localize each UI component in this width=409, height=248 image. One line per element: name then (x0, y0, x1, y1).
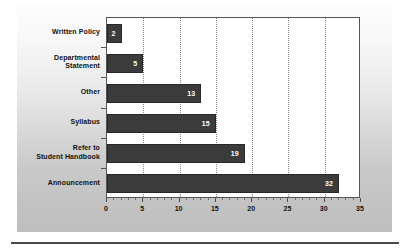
value-axis-minor-tick (237, 198, 238, 200)
value-axis-tick-label: 10 (168, 204, 190, 213)
value-axis-minor-tick (135, 198, 136, 200)
plot-area: 2513151932 (106, 17, 360, 198)
category-label: DepartmentalStatement (14, 54, 100, 71)
value-axis-minor-tick (244, 198, 245, 200)
category-label: Refer toStudent Handbook (14, 144, 100, 161)
bar[interactable]: 15 (107, 114, 216, 133)
category-label-line: Student Handbook (36, 153, 100, 160)
value-axis-tick (142, 198, 143, 202)
bar[interactable]: 2 (107, 24, 122, 43)
value-axis-tick-label: 30 (313, 204, 335, 213)
bar[interactable]: 5 (107, 54, 143, 73)
value-axis-minor-tick (128, 198, 129, 200)
value-axis-minor-tick (338, 198, 339, 200)
category-label-line: Written Policy (52, 28, 100, 35)
bar[interactable]: 19 (107, 144, 245, 163)
bar-series: 2513151932 (107, 18, 359, 197)
value-axis-minor-tick (121, 198, 122, 200)
category-label-line: Departmental (54, 54, 100, 61)
value-axis-tick-label: 20 (240, 204, 262, 213)
value-axis-minor-tick (258, 198, 259, 200)
value-axis-minor-tick (222, 198, 223, 200)
bar-row: 15 (107, 114, 361, 133)
value-axis-tick (324, 198, 325, 202)
value-axis-minor-tick (273, 198, 274, 200)
value-axis-minor-tick (157, 198, 158, 200)
category-label: Syllabus (14, 118, 100, 127)
value-axis-minor-tick (200, 198, 201, 200)
category-label-line: Announcement (48, 179, 100, 186)
value-axis-minor-tick (302, 198, 303, 200)
bar-row: 5 (107, 54, 361, 73)
value-axis-tick-label: 15 (204, 204, 226, 213)
bar-value-label: 19 (231, 150, 244, 157)
bar-row: 2 (107, 24, 361, 43)
value-axis-tick (106, 198, 107, 202)
value-axis-minor-tick (113, 198, 114, 200)
bar[interactable]: 13 (107, 84, 201, 103)
value-axis-minor-tick (193, 198, 194, 200)
value-axis-tick-label: 25 (276, 204, 298, 213)
category-label: Written Policy (14, 28, 100, 37)
value-axis-minor-tick (280, 198, 281, 200)
category-label-line: Syllabus (70, 118, 100, 125)
value-axis-minor-tick (353, 198, 354, 200)
value-axis-minor-tick (309, 198, 310, 200)
value-axis-tick-label: 35 (349, 204, 371, 213)
value-axis: 05101520253035 (106, 198, 360, 222)
value-axis-minor-tick (171, 198, 172, 200)
value-axis-minor-tick (266, 198, 267, 200)
category-label: Announcement (14, 179, 100, 188)
value-axis-minor-tick (295, 198, 296, 200)
value-axis-minor-tick (345, 198, 346, 200)
value-axis-tick (360, 198, 361, 202)
bar-value-label: 13 (187, 90, 200, 97)
bar-row: 32 (107, 174, 361, 193)
value-axis-minor-tick (150, 198, 151, 200)
value-axis-minor-tick (316, 198, 317, 200)
chart-figure: Written PolicyDepartmentalStatementOther… (0, 0, 409, 248)
bar-row: 19 (107, 144, 361, 163)
category-axis-labels: Written PolicyDepartmentalStatementOther… (14, 17, 100, 198)
value-axis-minor-tick (208, 198, 209, 200)
value-axis-tick (215, 198, 216, 202)
bar-value-label: 2 (111, 30, 120, 37)
value-axis-tick-label: 0 (95, 204, 117, 213)
value-axis-minor-tick (331, 198, 332, 200)
value-axis-minor-tick (164, 198, 165, 200)
category-label-line: Other (81, 88, 100, 95)
value-axis-minor-tick (186, 198, 187, 200)
category-label-line: Statement (65, 62, 100, 69)
value-axis-tick-label: 5 (131, 204, 153, 213)
category-label-line: Refer to (73, 144, 100, 151)
bar-value-label: 32 (325, 180, 338, 187)
category-label: Other (14, 88, 100, 97)
footer-rule (11, 242, 399, 244)
bar-value-label: 5 (133, 60, 142, 67)
value-axis-tick (251, 198, 252, 202)
bar-row: 13 (107, 84, 361, 103)
value-axis-tick (287, 198, 288, 202)
bar-value-label: 15 (202, 120, 215, 127)
bar[interactable]: 32 (107, 174, 339, 193)
value-axis-minor-tick (229, 198, 230, 200)
value-axis-tick (179, 198, 180, 202)
